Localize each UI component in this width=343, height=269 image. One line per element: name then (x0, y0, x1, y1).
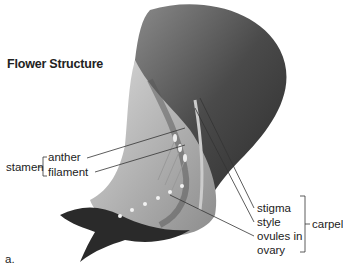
label-anther: anther (48, 151, 81, 164)
label-ovary: ovary (257, 244, 285, 257)
label-stamen: stamen (6, 161, 44, 174)
label-stigma: stigma (257, 202, 291, 215)
label-carpel: carpel (312, 218, 343, 231)
label-ovules-in: ovules in (257, 230, 302, 243)
label-style: style (257, 216, 281, 229)
panel-label: a. (5, 253, 15, 266)
diagram-title: Flower Structure (7, 57, 103, 71)
label-filament: filament (48, 166, 88, 179)
